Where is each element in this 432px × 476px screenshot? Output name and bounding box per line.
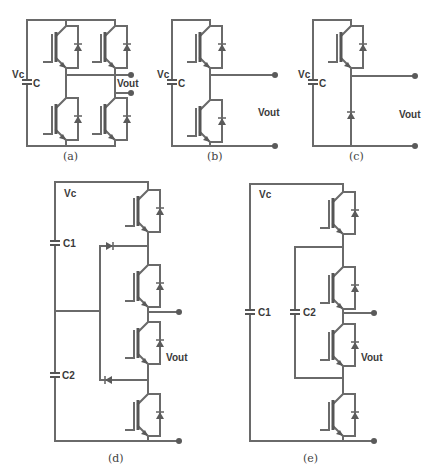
caption-e: (e) (303, 453, 318, 464)
caption-b: (b) (207, 151, 223, 162)
label-c-c: C (319, 79, 326, 89)
label-a-c: C (33, 79, 40, 89)
label-b-vc: Vc (157, 70, 169, 80)
figure-d (50, 182, 182, 444)
caption-d: (d) (108, 453, 124, 464)
caption-a: (a) (63, 151, 78, 162)
label-e-vc: Vc (259, 190, 271, 200)
label-d-c2: C2 (62, 371, 75, 381)
label-c-vc: Vc (298, 70, 310, 80)
label-a-vout: Vout (117, 79, 138, 89)
label-d-vc: Vc (64, 189, 76, 199)
label-d-vout: Vout (166, 353, 187, 363)
label-a-vc: Vc (12, 70, 24, 80)
label-c-vout: Vout (399, 110, 420, 120)
label-b-c: C (178, 79, 185, 89)
label-e-c2: C2 (303, 308, 316, 318)
label-e-c1: C1 (258, 308, 271, 318)
label-d-c1: C1 (63, 239, 76, 249)
caption-c: (c) (349, 151, 364, 162)
label-b-vout: Vout (258, 108, 279, 118)
label-e-vout: Vout (361, 353, 382, 363)
